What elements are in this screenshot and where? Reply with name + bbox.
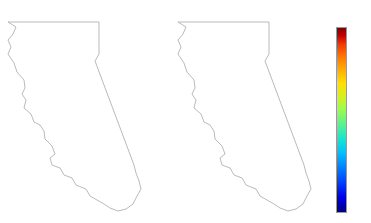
panel-a2-map	[170, 18, 345, 223]
california-outline-a2	[170, 18, 345, 223]
figure-root	[0, 0, 371, 223]
california-outline-b1	[0, 18, 175, 223]
colorbar	[330, 0, 371, 223]
colorbar-gradient-strip	[336, 27, 347, 213]
panel-b1	[0, 0, 175, 223]
panel-b1-map	[0, 18, 175, 223]
panel-a2	[170, 0, 345, 223]
